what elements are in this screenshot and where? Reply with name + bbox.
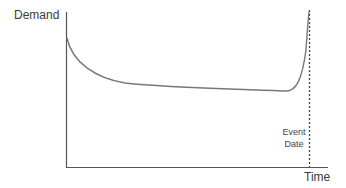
diagram-canvas	[0, 0, 346, 188]
event-label-line1: Event	[279, 126, 309, 138]
x-axis-label: Time	[304, 170, 330, 184]
event-date-label: Event Date	[279, 126, 309, 150]
demand-curve	[67, 12, 309, 91]
y-axis-label: Demand	[14, 8, 59, 22]
event-label-line2: Date	[279, 138, 309, 150]
demand-curve-diagram: Demand Time Event Date	[0, 0, 346, 188]
